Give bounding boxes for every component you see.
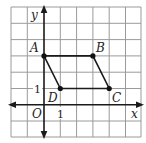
y-axis-label: y [30,8,38,22]
grid [11,7,141,137]
x-axis-label: x [131,107,138,121]
label-D: D [47,91,58,105]
label-A: A [29,41,39,55]
x-axis-left-arrow-icon [8,102,16,109]
point-D [58,86,63,91]
x-tick-label-1: 1 [57,108,64,121]
y-tick-label-1: 1 [34,83,41,96]
point-B [90,53,95,58]
y-axis-up-arrow-icon [41,5,48,13]
x-axis [8,102,144,109]
point-A [41,53,46,58]
y-axis-down-arrow-icon [41,131,48,139]
origin-label: O [32,107,42,121]
label-B: B [95,41,105,55]
coordinate-plane: y A B C D O 1 1 x [0,0,146,143]
label-C: C [112,91,121,105]
